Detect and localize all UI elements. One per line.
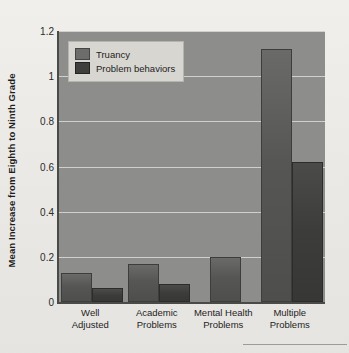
chart-figure: Mean Increase from Eighth to Ninth Grade… <box>0 0 349 353</box>
x-category-label-line: Problems <box>124 319 191 331</box>
legend-swatch-truancy <box>75 48 90 60</box>
legend-label-problem-behaviors: Problem behaviors <box>96 63 175 74</box>
x-category-label-line: Academic <box>124 307 191 319</box>
y-tick-label: 1.2 <box>40 26 54 37</box>
x-category-label: WellAdjusted <box>57 307 124 330</box>
legend-swatch-problem-behaviors <box>75 62 90 74</box>
legend-item-problem-behaviors: Problem behaviors <box>75 62 175 74</box>
x-category-label: AcademicProblems <box>124 307 191 330</box>
y-tick-label: 0.6 <box>40 161 54 172</box>
x-category-label-line: Mental Health <box>190 307 257 319</box>
y-axis-title-text: Mean Increase from Eighth to Ninth Grade <box>6 73 17 267</box>
x-category-label-line: Problems <box>257 319 324 331</box>
y-tick-label: 0.8 <box>40 116 54 127</box>
bar-problem[interactable] <box>159 284 190 302</box>
x-category-label-line: Multiple <box>257 307 324 319</box>
bar-truancy[interactable] <box>61 273 92 302</box>
legend-label-truancy: Truancy <box>96 49 130 60</box>
x-category-label-line: Problems <box>190 319 257 331</box>
scan-artifact-line <box>243 344 347 345</box>
legend-item-truancy: Truancy <box>75 48 175 60</box>
bar-truancy[interactable] <box>261 49 292 302</box>
bar-truancy[interactable] <box>128 264 159 302</box>
chart-legend: Truancy Problem behaviors <box>68 41 184 82</box>
bar-group <box>192 31 259 302</box>
y-tick-label: 0 <box>48 297 54 308</box>
x-category-label: Mental HealthProblems <box>190 307 257 330</box>
bar-group <box>259 31 326 302</box>
y-tick-label: 0.4 <box>40 206 54 217</box>
y-axis-tick-labels: 00.20.40.60.811.2 <box>20 24 56 310</box>
x-axis-category-labels: WellAdjustedAcademicProblemsMental Healt… <box>57 307 323 330</box>
x-category-label-line: Adjusted <box>57 319 124 331</box>
x-category-label: MultipleProblems <box>257 307 324 330</box>
y-tick-label: 0.2 <box>40 251 54 262</box>
bar-problem[interactable] <box>292 162 323 302</box>
y-axis-title: Mean Increase from Eighth to Ninth Grade <box>2 30 20 310</box>
y-tick-label: 1 <box>48 71 54 82</box>
bar-truancy[interactable] <box>210 257 241 302</box>
x-category-label-line: Well <box>57 307 124 319</box>
bar-problem[interactable] <box>92 288 123 302</box>
